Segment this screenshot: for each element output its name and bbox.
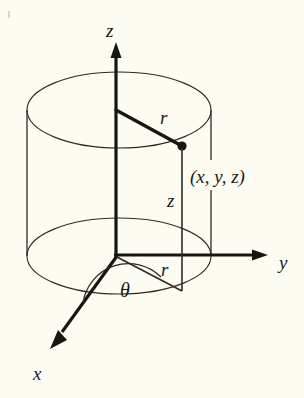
x-axis-label: x <box>32 363 42 384</box>
z-axis-label: z <box>105 20 114 41</box>
scan-speck <box>8 11 10 18</box>
point-label: (x, y, z) <box>190 166 245 188</box>
cylindrical-coordinates-figure: z y x r r z θ (x, y, z) <box>0 0 304 398</box>
radius-top-label: r <box>160 107 168 128</box>
figure-background <box>0 0 304 398</box>
theta-label: θ <box>120 279 130 301</box>
radius-base-label: r <box>161 259 169 280</box>
diagram-canvas: z y x r r z θ (x, y, z) <box>0 0 304 398</box>
y-axis-label: y <box>277 252 288 273</box>
height-label: z <box>166 190 175 211</box>
